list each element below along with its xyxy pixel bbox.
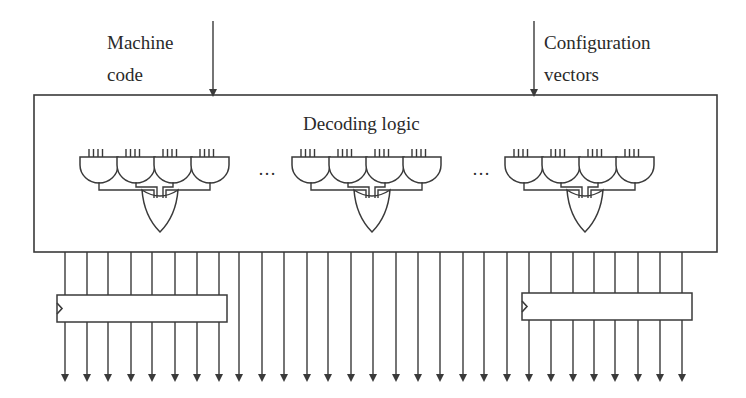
and-gate-icon xyxy=(505,157,543,183)
and-gate-icon xyxy=(579,157,617,183)
and-gate-icon xyxy=(542,157,580,183)
left-register xyxy=(57,295,227,322)
machine-code-input: Machine code xyxy=(107,21,213,93)
or-gate-icon xyxy=(567,190,603,232)
configuration-label-line2: vectors xyxy=(544,64,599,85)
machine-code-label-line2: code xyxy=(107,64,143,85)
machine-code-label-line1: Machine xyxy=(107,32,173,53)
gate-group-1 xyxy=(80,149,229,232)
and-gate-icon xyxy=(80,157,118,183)
and-gate-icon xyxy=(191,157,229,183)
and-gate-icon xyxy=(154,157,192,183)
group-separator-1: … xyxy=(258,159,276,179)
and-gate-icon xyxy=(616,157,654,183)
gate-group-2 xyxy=(292,149,441,232)
gate-groups xyxy=(80,149,654,232)
and-gate-icon xyxy=(329,157,367,183)
and-gate-icon xyxy=(403,157,441,183)
group-separator-2: … xyxy=(472,159,490,179)
and-gate-icon xyxy=(366,157,404,183)
decoder-diagram: Machine code Configuration vectors Decod… xyxy=(0,0,746,398)
or-gate-icon xyxy=(142,190,178,232)
right-register xyxy=(522,293,692,320)
decoding-logic-block: Decoding logic … … xyxy=(34,95,717,252)
gate-group-3 xyxy=(505,149,654,232)
configuration-label-line1: Configuration xyxy=(544,32,651,53)
left-register-box xyxy=(57,295,227,322)
or-gate-icon xyxy=(354,190,390,232)
and-gate-icon xyxy=(292,157,330,183)
and-gate-icon xyxy=(117,157,155,183)
decoding-logic-title: Decoding logic xyxy=(303,113,420,134)
right-register-box xyxy=(522,293,692,320)
configuration-vectors-input: Configuration vectors xyxy=(534,21,651,93)
